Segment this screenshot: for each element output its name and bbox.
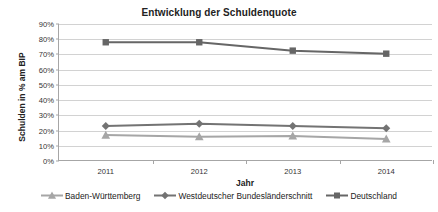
y-tick-label: 60%: [39, 65, 54, 74]
y-tick-label: 40%: [39, 96, 54, 105]
x-tick-label: 2012: [191, 167, 208, 176]
legend-label: Baden-Württemberg: [65, 191, 140, 201]
data-point-marker: [289, 122, 297, 130]
y-tick-label: 10%: [39, 141, 54, 150]
data-point-marker: [382, 124, 390, 132]
x-axis-title: Jahr: [58, 178, 432, 188]
plot-area: 0%10%20%30%40%50%60%70%80%90% 2011201220…: [58, 24, 432, 161]
data-point-marker: [102, 122, 110, 130]
data-point-marker: [195, 120, 203, 128]
legend-label: Westdeutscher Bundesländerschnitt: [178, 191, 312, 201]
y-tick-label: 0%: [43, 157, 54, 166]
series-line: [106, 42, 387, 53]
legend-item[interactable]: Westdeutscher Bundesländerschnitt: [154, 190, 312, 201]
x-tick-mark: [433, 160, 434, 164]
series-line: [106, 135, 387, 139]
series-diamond: [102, 120, 391, 133]
chart-container: Entwicklung der Schuldenquote Schulden i…: [0, 0, 438, 212]
y-tick-label: 70%: [39, 50, 54, 59]
legend-marker-diamond: [154, 190, 176, 201]
y-tick-label: 30%: [39, 111, 54, 120]
legend-marker-triangle: [41, 190, 63, 201]
data-point-marker: [334, 193, 340, 199]
y-axis-title: Schulden in % am BIP: [17, 27, 27, 167]
data-point-marker: [196, 39, 202, 45]
data-point-marker: [290, 47, 296, 53]
y-tick-label: 80%: [39, 35, 54, 44]
y-tick-label: 90%: [39, 20, 54, 29]
chart-title: Entwicklung der Schuldenquote: [0, 7, 438, 18]
series-triangle: [101, 131, 390, 143]
legend-label: Deutschland: [350, 191, 397, 201]
x-tick-label: 2011: [98, 167, 114, 176]
x-tick-label: 2013: [284, 167, 301, 176]
series-line: [106, 124, 387, 129]
legend-item[interactable]: Deutschland: [326, 190, 397, 201]
data-point-marker: [162, 192, 170, 200]
legend-item[interactable]: Baden-Württemberg: [41, 190, 140, 201]
series-square: [103, 39, 390, 57]
legend-marker-square: [326, 190, 348, 201]
data-point-marker: [103, 39, 109, 45]
data-point-marker: [383, 50, 389, 56]
y-tick-label: 50%: [39, 80, 54, 89]
chart-legend: Baden-WürttembergWestdeutscher Bundeslän…: [0, 190, 438, 201]
y-tick-label: 20%: [39, 126, 54, 135]
series-layer: [59, 24, 433, 161]
x-tick-label: 2014: [378, 167, 395, 176]
